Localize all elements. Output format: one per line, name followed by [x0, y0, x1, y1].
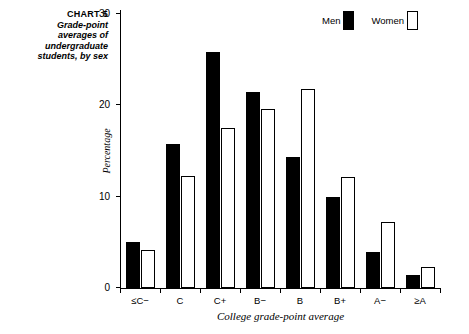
bar-group	[400, 14, 440, 288]
chart-figure: CHART 5 Grade-point averages of undergra…	[0, 0, 469, 334]
bar-group	[240, 14, 280, 288]
chart-title-line-3: undergraduate	[4, 41, 108, 52]
bar-men-4	[286, 157, 300, 288]
y-axis-title: Percentage	[101, 128, 112, 173]
bar-men-6	[366, 252, 380, 288]
bar-women-0	[141, 250, 155, 288]
bar-group	[160, 14, 200, 288]
y-tick-label-30: 30	[99, 8, 110, 19]
x-category-label-2: C+	[214, 295, 226, 306]
bar-women-7	[421, 267, 435, 288]
x-category-label-5: B+	[334, 295, 346, 306]
x-category-label-1: C	[177, 295, 184, 306]
bar-group	[320, 14, 360, 288]
x-tick-0	[160, 288, 161, 293]
x-axis-title: College grade-point average	[120, 310, 441, 322]
y-tick-label-10: 10	[99, 190, 110, 201]
x-category-label-7: ≥A	[414, 295, 426, 306]
x-tick-origin	[120, 288, 121, 293]
chart-number: CHART 5	[4, 9, 108, 20]
bar-group	[200, 14, 240, 288]
bar-group	[280, 14, 320, 288]
bar-men-2	[206, 52, 220, 288]
bar-men-5	[326, 197, 340, 288]
bar-women-2	[221, 128, 235, 288]
bar-women-3	[261, 109, 275, 288]
x-category-label-0: ≤C−	[131, 295, 149, 306]
bar-group	[120, 14, 160, 288]
plot-area: Percentage 0102030 ≤C−CC+B−BB+A−≥A Colle…	[120, 14, 440, 288]
x-tick-1	[200, 288, 201, 293]
x-tick-4	[320, 288, 321, 293]
bar-men-3	[246, 92, 260, 288]
bar-group	[360, 14, 400, 288]
x-category-label-6: A−	[374, 295, 386, 306]
bar-men-0	[126, 242, 140, 288]
chart-title-line-1: Grade-point	[4, 20, 108, 31]
bar-men-1	[166, 144, 180, 288]
x-tick-5	[360, 288, 361, 293]
x-category-label-3: B−	[254, 295, 266, 306]
x-tick-7	[440, 288, 441, 293]
bar-men-7	[406, 275, 420, 288]
x-tick-2	[240, 288, 241, 293]
chart-title-line-4: students, by sex	[4, 51, 108, 62]
bar-women-4	[301, 89, 315, 288]
x-tick-6	[400, 288, 401, 293]
bar-women-1	[181, 176, 195, 288]
x-category-label-4: B	[297, 295, 303, 306]
chart-title-line-2: averages of	[4, 30, 108, 41]
bar-women-6	[381, 222, 395, 288]
x-tick-3	[280, 288, 281, 293]
y-tick-label-0: 0	[104, 282, 110, 293]
chart-caption: CHART 5 Grade-point averages of undergra…	[4, 9, 108, 62]
y-tick-label-20: 20	[99, 99, 110, 110]
bar-women-5	[341, 177, 355, 288]
